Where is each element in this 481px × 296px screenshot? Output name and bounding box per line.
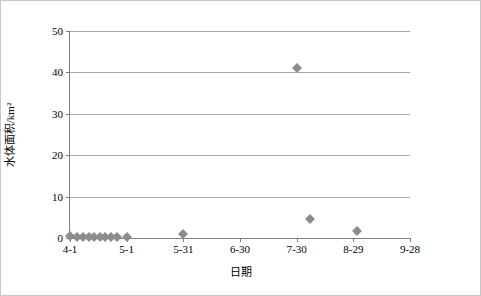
gridline-y [70, 197, 410, 198]
x-axis-tick [297, 238, 298, 242]
x-axis-tick-label: 5-31 [173, 243, 193, 255]
x-axis-tick-label: 7-30 [287, 243, 307, 255]
data-point [122, 232, 132, 242]
x-axis-title: 日期 [1, 263, 480, 279]
x-axis-tick [410, 238, 411, 242]
gridline-y [70, 72, 410, 73]
data-point [352, 226, 362, 236]
gridline-y [70, 31, 410, 32]
x-axis-tick-label: 4-1 [63, 243, 78, 255]
y-axis-tick [66, 31, 70, 32]
y-axis-tick-label: 40 [52, 66, 63, 78]
plot-area: 010203040504-15-15-316-307-308-299-28 [69, 31, 410, 239]
y-axis-tick-label: 50 [52, 25, 63, 37]
chart-container: 水体面积/km² 010203040504-15-15-316-307-308-… [0, 0, 481, 296]
y-axis-tick-label: 30 [52, 108, 63, 120]
gridline-y [70, 114, 410, 115]
x-axis-tick [353, 238, 354, 242]
y-axis-tick-label: 10 [52, 191, 63, 203]
x-axis-tick-label: 8-29 [343, 243, 363, 255]
x-axis-tick-label: 6-30 [230, 243, 250, 255]
x-axis-tick-label: 9-28 [400, 243, 420, 255]
gridline-y [70, 155, 410, 156]
x-axis-tick-label: 5-1 [119, 243, 134, 255]
y-axis-tick [66, 72, 70, 73]
y-axis-title: 水体面积/km² [1, 103, 17, 167]
y-axis-tick-label: 20 [52, 149, 63, 161]
y-axis-tick [66, 114, 70, 115]
x-axis-tick [240, 238, 241, 242]
y-axis-tick [66, 197, 70, 198]
data-point [178, 229, 188, 239]
x-axis-tick [183, 238, 184, 242]
y-axis-tick [66, 155, 70, 156]
data-point [305, 214, 315, 224]
